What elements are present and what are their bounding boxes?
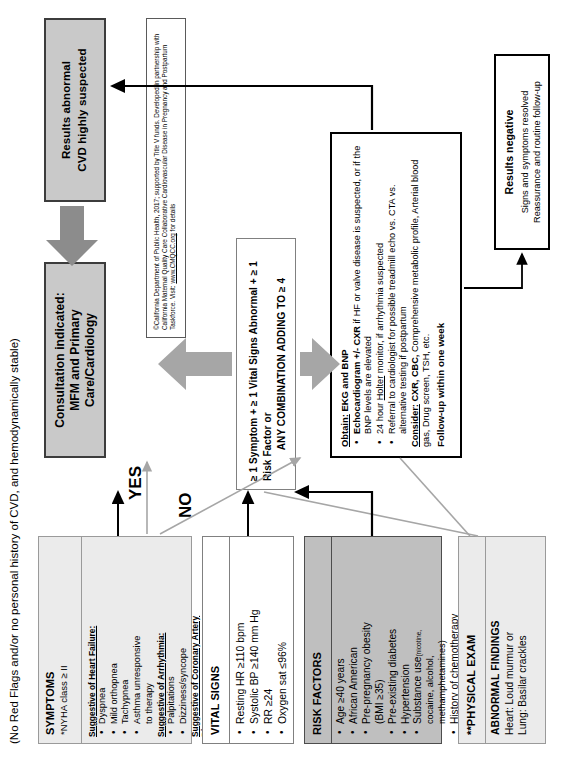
- decision-to-workup-arrow: [300, 338, 340, 390]
- no-arrow: [160, 458, 300, 534]
- workup-to-negative-arrow: [464, 254, 522, 288]
- connector-overlay: [0, 0, 566, 758]
- workup-to-abnormal-arrow: [112, 86, 372, 130]
- exam-yes-connector: [400, 458, 470, 536]
- diagram-canvas: (No Red Flags and/or no personal history…: [0, 0, 566, 758]
- flowchart-sheet: (No Red Flags and/or no personal history…: [0, 0, 566, 758]
- abnormal-to-consultation-arrow: [46, 206, 98, 266]
- decision-to-consultation-arrow: [158, 338, 232, 390]
- risk-to-decision-arrow: [296, 492, 372, 536]
